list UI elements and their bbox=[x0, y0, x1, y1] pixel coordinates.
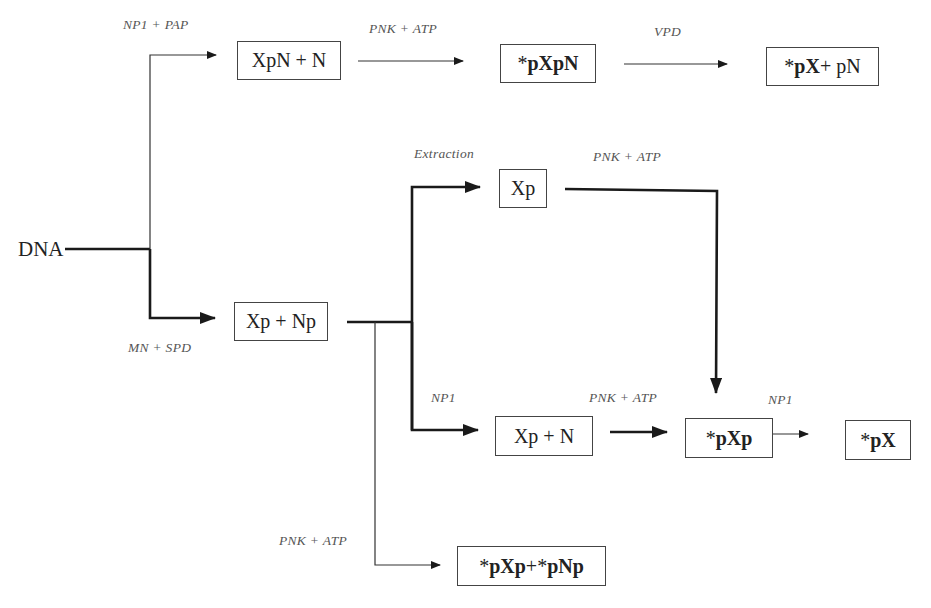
arrow-pnk-atp-xp bbox=[565, 189, 717, 393]
arrow-np1-mid bbox=[412, 322, 478, 430]
node-px-pn: *pX + pN bbox=[766, 47, 879, 86]
node-text: * bbox=[706, 427, 716, 450]
node-text: pX bbox=[794, 55, 820, 78]
node-xpn-n: XpN + N bbox=[237, 41, 341, 80]
label-pnk-atp-mid: PNK + ATP bbox=[589, 390, 657, 406]
node-xp: Xp bbox=[499, 169, 547, 208]
node-text: XpN + N bbox=[252, 49, 327, 72]
node-text: * bbox=[860, 429, 870, 452]
node-text: Xp bbox=[511, 177, 535, 200]
node-text: pNp bbox=[547, 555, 584, 578]
node-text: * bbox=[479, 555, 489, 578]
node-pxp-pnp: *pXp + *pNp bbox=[457, 546, 606, 586]
label-pnk-atp-top: PNK + ATP bbox=[369, 21, 437, 37]
label-pnk-atp-xp: PNK + ATP bbox=[593, 149, 661, 165]
label-pnk-atp-bottom: PNK + ATP bbox=[279, 533, 347, 549]
node-xp-n: Xp + N bbox=[495, 416, 593, 456]
arrow-mn-spd bbox=[150, 249, 215, 318]
node-px: *pX bbox=[845, 420, 911, 460]
label-np1-mid: NP1 bbox=[431, 390, 456, 406]
node-text: Xp + Np bbox=[246, 310, 316, 333]
node-text: Xp + N bbox=[514, 425, 574, 448]
node-text: pX bbox=[870, 429, 896, 452]
label-vpd: VPD bbox=[654, 24, 681, 40]
node-xp-np: Xp + Np bbox=[234, 302, 328, 341]
node-text: * bbox=[784, 55, 794, 78]
label-extraction: Extraction bbox=[414, 146, 474, 162]
label-mn-spd: MN + SPD bbox=[128, 340, 191, 356]
node-pxp: *pXp bbox=[685, 418, 773, 458]
connector-lines bbox=[0, 0, 931, 608]
node-text: * bbox=[517, 52, 527, 75]
arrow-pnk-atp-bottom bbox=[375, 322, 440, 565]
node-pxpn: *pXpN bbox=[500, 44, 596, 83]
node-text: pXp bbox=[489, 555, 526, 578]
dna-label: DNA bbox=[18, 237, 64, 262]
node-text: + pN bbox=[820, 55, 861, 78]
arrow-np1-pap bbox=[150, 55, 216, 249]
node-text: * bbox=[537, 555, 547, 578]
node-text: pXpN bbox=[527, 52, 578, 75]
node-text: + bbox=[526, 555, 537, 578]
node-text: pXp bbox=[716, 427, 753, 450]
label-np1-right: NP1 bbox=[768, 392, 793, 408]
label-np1-pap: NP1 + PAP bbox=[123, 17, 189, 33]
